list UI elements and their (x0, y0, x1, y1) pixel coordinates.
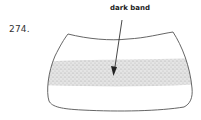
dark-band-region (40, 58, 200, 86)
specimen-illustration (0, 0, 201, 120)
